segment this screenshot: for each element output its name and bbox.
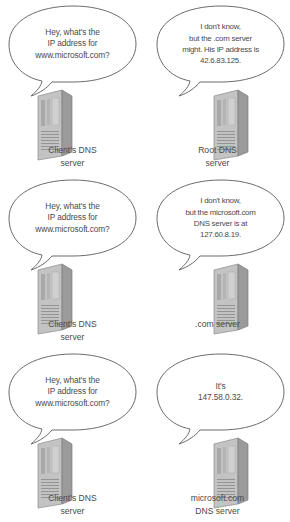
bubble-text: It's 147.58.0.32. bbox=[157, 348, 284, 436]
speech-bubble: I don't know, but the microsoft.com DNS … bbox=[148, 174, 290, 274]
node-caption: Root DNS server bbox=[145, 144, 290, 169]
client-dns-node: Hey, what's the IP address for www.micro… bbox=[0, 348, 145, 522]
com-server-node: I don't know, but the microsoft.com DNS … bbox=[145, 174, 290, 348]
exchange-row: Hey, what's the IP address for www.micro… bbox=[0, 348, 290, 522]
bubble-text: Hey, what's the IP address for www.micro… bbox=[9, 0, 136, 88]
speech-bubble: Hey, what's the IP address for www.micro… bbox=[0, 348, 145, 448]
bubble-text: I don't know, but the microsoft.com DNS … bbox=[157, 174, 284, 262]
dns-resolution-diagram: Hey, what's the IP address for www.micro… bbox=[0, 0, 290, 522]
speech-bubble: It's 147.58.0.32. bbox=[148, 348, 290, 448]
bubble-text: Hey, what's the IP address for www.micro… bbox=[9, 348, 136, 436]
speech-bubble: Hey, what's the IP address for www.micro… bbox=[0, 0, 145, 100]
microsoft-dns-node: It's 147.58.0.32. bbox=[145, 348, 290, 522]
exchange-row: Hey, what's the IP address for www.micro… bbox=[0, 174, 290, 348]
root-dns-node: I don't know, but the .com server might.… bbox=[145, 0, 290, 174]
node-caption: microsoft.com DNS server bbox=[145, 492, 290, 517]
node-caption: Client's DNS server bbox=[0, 492, 145, 517]
speech-bubble: Hey, what's the IP address for www.micro… bbox=[0, 174, 145, 274]
client-dns-node: Hey, what's the IP address for www.micro… bbox=[0, 174, 145, 348]
bubble-text: I don't know, but the .com server might.… bbox=[157, 0, 284, 88]
exchange-row: Hey, what's the IP address for www.micro… bbox=[0, 0, 290, 174]
bubble-text: Hey, what's the IP address for www.micro… bbox=[9, 174, 136, 262]
node-caption: Client's DNS server bbox=[0, 318, 145, 343]
node-caption: .com server bbox=[145, 318, 290, 331]
client-dns-node: Hey, what's the IP address for www.micro… bbox=[0, 0, 145, 174]
node-caption: Client's DNS server bbox=[0, 144, 145, 169]
speech-bubble: I don't know, but the .com server might.… bbox=[148, 0, 290, 100]
